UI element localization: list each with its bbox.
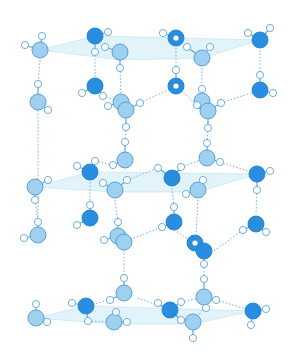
water-molecule-C5 — [27, 176, 52, 203]
hydrogen-atom — [99, 179, 106, 186]
hydrogen-atom — [204, 124, 211, 131]
hydrogen-atom — [159, 29, 166, 36]
hydrogen-atom — [44, 176, 51, 183]
hydrogen-atom — [68, 299, 75, 306]
oxygen-atom — [28, 310, 44, 326]
layer-plane-3 — [36, 306, 253, 324]
water-molecule-E7 — [185, 314, 201, 342]
hydrogen-atom — [91, 157, 98, 164]
hydrogen-atom — [123, 318, 130, 325]
hydrogen-atom — [269, 89, 276, 96]
hydrogen-atom — [158, 223, 165, 230]
hydrogen-atom — [43, 318, 50, 325]
hydrogen-atom — [266, 167, 273, 174]
oxygen-atom — [249, 166, 265, 182]
hydrogen-atom — [253, 186, 260, 193]
hydrogen-atom — [121, 138, 128, 145]
oxygen-atom — [112, 44, 128, 60]
oxygen-atom — [116, 285, 132, 301]
water-molecule-B1 — [30, 80, 52, 113]
water-molecule-E5 — [28, 300, 51, 326]
hydrogen-atom — [31, 196, 38, 203]
hydrogen-atom — [100, 236, 107, 243]
hydrogen-atom — [154, 164, 161, 171]
hydrogen-atom — [122, 123, 129, 130]
hydrogen-atom — [199, 176, 206, 183]
hydrogen-atom — [202, 304, 209, 311]
water-molecule-A1 — [21, 32, 48, 58]
hydrogen-bond — [120, 68, 121, 95]
hydrogen-atom — [114, 218, 121, 225]
hydrogen-atom — [177, 163, 184, 170]
water-molecule-C2 — [199, 139, 224, 166]
water-molecule-C8 — [249, 166, 274, 194]
hydrogen-atom — [86, 201, 93, 208]
water-molecule-B2 — [78, 78, 106, 100]
hydrogen-bond — [214, 230, 243, 251]
hydrogen-atom — [32, 300, 39, 307]
hydrogen-atom — [206, 43, 213, 50]
oxygen-atom — [194, 50, 210, 66]
water-molecule-A6 — [244, 24, 273, 48]
oxygen-atom — [199, 150, 215, 166]
hydrogen-atom — [123, 176, 130, 183]
hydrogen-atom — [177, 298, 184, 305]
hydrogen-atom — [120, 274, 127, 281]
oxygen-atom — [87, 28, 103, 44]
oxygen-atom — [82, 210, 98, 226]
oxygen-atom — [196, 289, 212, 305]
oxygen-highlight — [173, 83, 178, 88]
hydrogen-atom — [44, 106, 51, 113]
hydrogen-atom — [189, 334, 196, 341]
oxygen-atom — [252, 32, 268, 48]
oxygen-atom — [252, 82, 268, 98]
hydrogen-atom — [136, 99, 143, 106]
oxygen-atom — [190, 182, 206, 198]
oxygen-atom — [245, 303, 261, 319]
hydrogen-atom — [262, 305, 269, 312]
hydrogen-atom — [177, 316, 184, 323]
water-molecule-D1 — [73, 201, 98, 228]
hydrogen-atom — [200, 260, 207, 267]
water-molecule-B3 — [168, 66, 184, 94]
oxygen-atom — [82, 164, 98, 180]
oxygen-atom — [185, 314, 201, 330]
hydrogen-atom — [116, 64, 123, 71]
oxygen-atom — [248, 216, 264, 232]
hydrogen-atom — [170, 203, 177, 210]
oxygen-atom — [107, 182, 123, 198]
water-molecule-B5b — [118, 99, 144, 130]
water-molecule-B6b — [200, 99, 225, 131]
hydrogen-atom — [34, 80, 41, 87]
hydrogen-atom — [104, 102, 111, 109]
hydrogen-atom — [101, 43, 108, 50]
water-molecule-D6b — [196, 243, 212, 268]
hydrogen-atom — [104, 28, 111, 35]
water-molecule-E1 — [106, 274, 132, 303]
hydrogen-atom — [91, 48, 98, 55]
oxygen-atom — [196, 243, 212, 259]
hydrogen-atom — [183, 43, 190, 50]
water-molecule-D4 — [20, 218, 46, 243]
hydrogen-atom — [73, 221, 80, 228]
oxygen-atom — [164, 170, 180, 186]
water-molecule-C1 — [109, 138, 133, 168]
diagram-canvas — [0, 0, 289, 358]
hydrogen-atom — [78, 89, 85, 96]
oxygen-atom — [30, 227, 46, 243]
hydrogen-atom — [256, 71, 263, 78]
hydrogen-atom — [112, 308, 119, 315]
oxygen-atom — [27, 179, 43, 195]
hydrogen-atom — [182, 190, 189, 197]
water-molecule-D5b — [116, 234, 132, 250]
hydrogen-atom — [193, 101, 200, 108]
hydrogen-atom — [198, 85, 205, 92]
hydrogen-bond — [196, 200, 198, 234]
oxygen-atom — [162, 302, 178, 318]
hydrogen-atom — [262, 228, 269, 235]
oxygen-atom — [106, 314, 122, 330]
hydrogen-atom — [109, 161, 116, 168]
hydrogen-atom — [106, 296, 113, 303]
hydrogen-atom — [203, 139, 210, 146]
hydrogen-atom — [212, 296, 219, 303]
